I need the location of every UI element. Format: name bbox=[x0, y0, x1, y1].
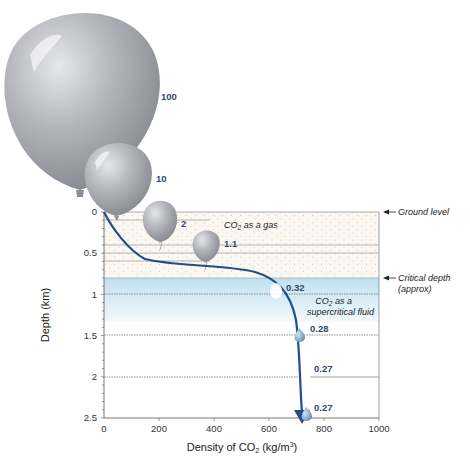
y-tick-1: 1 bbox=[92, 289, 97, 300]
x-tick-1000: 1000 bbox=[368, 423, 389, 434]
critical-depth-arrow-icon bbox=[383, 276, 396, 281]
y-tick-0: 0 bbox=[92, 206, 97, 217]
supercritical-label-line2: supercritical fluid bbox=[307, 307, 375, 317]
volume-label-0-32: 0.32 bbox=[286, 282, 305, 293]
critical-depth-approx-label: (approx) bbox=[398, 284, 432, 294]
volume-label-1-1: 1.1 bbox=[224, 238, 238, 249]
x-tick-200: 200 bbox=[151, 423, 167, 434]
x-tick-800: 800 bbox=[316, 423, 332, 434]
volume-label-100: 100 bbox=[161, 91, 177, 102]
volume-label-0-28: 0.28 bbox=[310, 323, 329, 334]
x-tick-600: 600 bbox=[261, 423, 277, 434]
y-tick-2: 2 bbox=[92, 371, 97, 382]
y-axis-title: Depth (km) bbox=[39, 288, 51, 342]
volume-label-10: 10 bbox=[156, 173, 167, 184]
y-tick-0-5: 0.5 bbox=[84, 247, 97, 258]
gas-zone-label: CO2 as a gas bbox=[224, 220, 278, 231]
ground-level-arrow-icon bbox=[383, 210, 396, 215]
ground-level-label: Ground level bbox=[398, 207, 450, 217]
drop-0-27 bbox=[302, 407, 312, 421]
co2-density-diagram: 0 0.5 1 1.5 2 2.5 0 200 400 600 800 1000… bbox=[0, 0, 470, 469]
volume-label-0-27-drop: 0.27 bbox=[314, 402, 333, 413]
x-axis-title: Density of CO2 (kg/m3) bbox=[187, 441, 298, 454]
supercritical-label-line1: CO2 as a bbox=[315, 296, 352, 307]
volume-label-2: 2 bbox=[181, 218, 186, 229]
y-tick-2-5: 2.5 bbox=[84, 412, 97, 423]
y-tick-1-5: 1.5 bbox=[84, 330, 97, 341]
drop-0-32 bbox=[270, 283, 282, 299]
volume-label-0-27-line: 0.27 bbox=[314, 363, 333, 374]
x-tick-0: 0 bbox=[101, 423, 106, 434]
x-tick-400: 400 bbox=[206, 423, 222, 434]
critical-depth-label: Critical depth bbox=[398, 273, 451, 283]
